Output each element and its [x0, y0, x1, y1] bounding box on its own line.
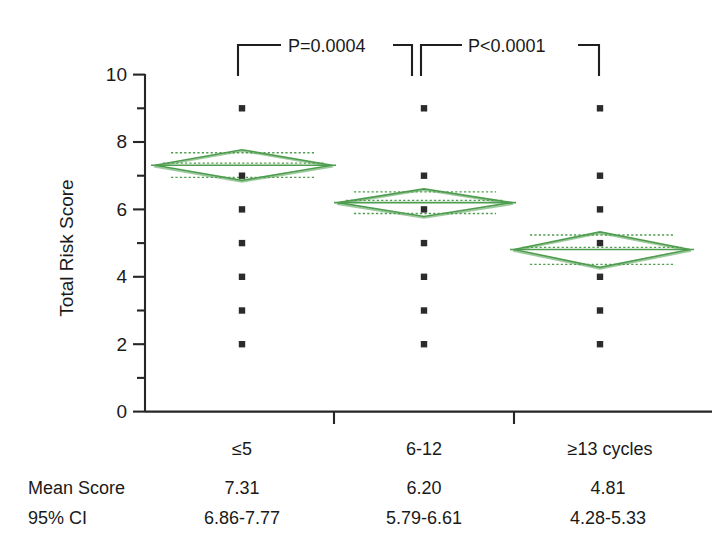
summary-table: Mean Score 7.31 6.20 4.81 95% CI 6.86-7.…	[28, 478, 646, 528]
data-point	[597, 105, 603, 111]
table-row-1-cell-2: 6.20	[406, 478, 441, 498]
table-row-1-cell-3: 4.81	[590, 478, 625, 498]
data-point	[597, 341, 603, 347]
group-3-diamond	[510, 232, 694, 269]
pvalue-label-2: P<0.0001	[468, 36, 546, 56]
significance-bracket-group-1: P=0.0004	[238, 36, 412, 76]
x-cat-label-3: ≥13 cycles	[568, 439, 653, 459]
bracket-path-2b	[578, 45, 599, 76]
y-tick-label-2: 2	[116, 334, 127, 355]
table-row-2-cell-2: 5.79-6.61	[386, 508, 462, 528]
diamond-outline-shadow-3	[513, 233, 691, 268]
bracket-path-1	[238, 45, 281, 76]
x-cat-label-1: ≤5	[232, 439, 252, 459]
y-tick-label-4: 4	[116, 266, 127, 287]
y-axis-title: Total Risk Score	[56, 179, 77, 316]
group-1-points	[239, 105, 245, 347]
y-tick-label-10: 10	[106, 64, 127, 85]
data-point	[597, 173, 603, 179]
x-axis: ≤5 6-12 ≥13 cycles	[145, 412, 712, 459]
data-point	[597, 206, 603, 212]
data-point	[421, 307, 427, 313]
table-row-2-cell-3: 4.28-5.33	[570, 508, 646, 528]
table-row-1-cell-1: 7.31	[224, 478, 259, 498]
data-point	[239, 341, 245, 347]
data-point	[239, 240, 245, 246]
group-3-points	[597, 105, 603, 347]
group-2-points	[421, 105, 427, 347]
y-tick-label-8: 8	[116, 131, 127, 152]
data-point	[597, 307, 603, 313]
data-point	[421, 274, 427, 280]
data-point	[421, 105, 427, 111]
group-2-diamond	[334, 189, 516, 218]
bracket-path-1b	[393, 45, 412, 76]
data-point	[421, 173, 427, 179]
pvalue-label-1: P=0.0004	[288, 36, 366, 56]
y-tick-label-6: 6	[116, 199, 127, 220]
x-cat-label-2: 6-12	[406, 439, 442, 459]
data-point	[239, 105, 245, 111]
y-tick-label-0: 0	[116, 401, 127, 422]
significance-bracket-group-2: P<0.0001	[421, 36, 599, 76]
table-row-2-header: 95% CI	[28, 508, 87, 528]
table-row-1-header: Mean Score	[28, 478, 125, 498]
data-point	[239, 173, 245, 179]
chart-canvas: P=0.0004 P<0.0001 10 8 6 4 2	[0, 0, 721, 557]
diamond-mean-plot-figure: P=0.0004 P<0.0001 10 8 6 4 2	[0, 0, 721, 557]
data-point	[239, 274, 245, 280]
data-point	[421, 206, 427, 212]
data-point	[421, 240, 427, 246]
data-point	[421, 341, 427, 347]
table-row-2-cell-1: 6.86-7.77	[204, 508, 280, 528]
data-point	[239, 206, 245, 212]
data-point	[239, 307, 245, 313]
y-axis: 10 8 6 4 2 0 Total Risk Score	[56, 64, 145, 422]
bracket-path-2	[421, 45, 462, 76]
data-point	[597, 240, 603, 246]
data-point	[597, 274, 603, 280]
